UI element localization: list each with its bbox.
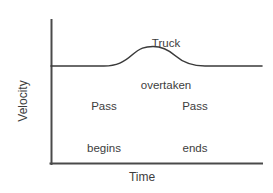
y-axis-label: Velocity [16,78,30,124]
annotation-pass-ends: Pass ends [164,71,226,183]
annotation-pass-begins-line1: Pass [71,99,137,113]
annotation-truck-line1: Truck [120,36,212,50]
annotation-pass-begins-line2: begins [71,141,137,155]
velocity-time-figure: Velocity Time Truck overtaken Pass begin… [0,0,273,193]
annotation-pass-ends-line2: ends [164,141,226,155]
annotation-pass-ends-line1: Pass [164,99,226,113]
annotation-pass-begins: Pass begins [71,71,137,183]
